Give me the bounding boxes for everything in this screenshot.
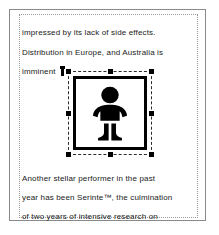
document-text-line[interactable]: impressed by its lack of side effects. [22, 28, 156, 37]
document-text-line[interactable]: imminent [22, 67, 56, 76]
text-cursor [61, 66, 64, 76]
document-workspace: impressed by its lack of side effects. D… [0, 0, 219, 235]
document-text-line[interactable]: year has been Serinte™, the culmination [22, 193, 172, 202]
resize-handle-n[interactable] [108, 69, 113, 74]
resize-handle-sw[interactable] [66, 152, 71, 157]
document-text-line[interactable]: Distribution in Europe, and Australia is [22, 48, 163, 57]
image-frame[interactable] [73, 76, 147, 150]
resize-handle-e[interactable] [149, 111, 154, 116]
resize-handle-nw[interactable] [66, 69, 71, 74]
resize-handle-w[interactable] [66, 111, 71, 116]
document-page[interactable]: impressed by its lack of side effects. D… [9, 9, 206, 221]
resize-handle-s[interactable] [108, 152, 113, 157]
resize-handle-se[interactable] [149, 152, 154, 157]
resize-handle-ne[interactable] [149, 69, 154, 74]
document-text-line[interactable]: of two years of intensive research on [22, 212, 158, 221]
document-text-line[interactable]: Another stellar performer in the past [22, 174, 155, 183]
baby-pictogram-icon [76, 79, 144, 147]
selected-image-object[interactable] [68, 71, 152, 155]
